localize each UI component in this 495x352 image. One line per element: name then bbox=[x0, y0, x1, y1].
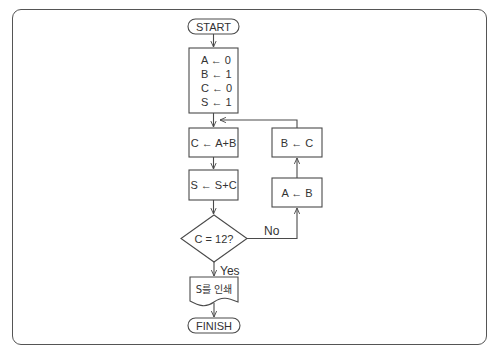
process-s-sum: S ← S+C bbox=[189, 170, 238, 200]
print-document: S를 인쇄 bbox=[190, 277, 238, 306]
no-label: No bbox=[264, 224, 280, 238]
init-line-c: C ← 0 bbox=[201, 82, 232, 94]
decision-c-equals-12: C = 12? bbox=[181, 215, 247, 262]
start-label: START bbox=[196, 21, 231, 33]
yes-label: Yes bbox=[220, 264, 240, 278]
process-a-assign: A ← B bbox=[272, 178, 322, 207]
process-s-sum-label: S ← S+C bbox=[190, 179, 236, 191]
finish-terminal: FINISH bbox=[188, 318, 240, 333]
init-process-box: A ← 0 B ← 1 C ← 0 S ← 1 bbox=[189, 48, 238, 113]
process-b-assign-label: B ← C bbox=[281, 137, 313, 149]
init-line-a: A ← 0 bbox=[201, 54, 231, 66]
print-label: S를 인쇄 bbox=[196, 284, 233, 295]
finish-label: FINISH bbox=[196, 320, 232, 332]
process-a-assign-label: A ← B bbox=[281, 187, 312, 199]
loop-back-connector bbox=[220, 120, 297, 128]
process-c-sum: C ← A+B bbox=[189, 128, 238, 157]
decision-label: C = 12? bbox=[195, 233, 234, 245]
process-c-sum-label: C ← A+B bbox=[191, 137, 237, 149]
init-line-b: B ← 1 bbox=[201, 68, 232, 80]
init-line-s: S ← 1 bbox=[201, 96, 232, 108]
start-terminal: START bbox=[188, 19, 239, 34]
flowchart: START A ← 0 B ← 1 C ← 0 S ← 1 C ← A+B S … bbox=[0, 0, 495, 352]
process-b-assign: B ← C bbox=[272, 128, 322, 157]
